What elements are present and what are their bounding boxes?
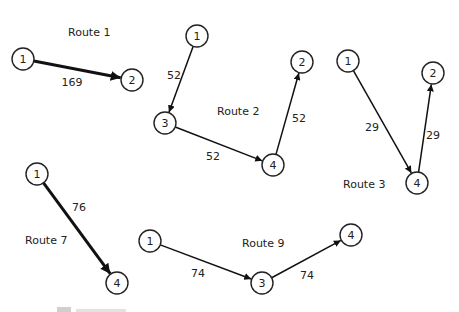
route-3-node-1: 1 [337,50,359,72]
node-label: 3 [162,117,169,130]
nodes-layer: 12134214214134 [12,25,444,294]
arrow-icon [353,71,411,173]
route-3-node-4: 4 [406,172,428,194]
route-1-label: Route 1 [68,26,110,39]
route-7-node-1: 1 [26,163,48,185]
node-label: 2 [430,67,437,80]
route-9-node-1: 1 [139,230,161,252]
route-9-node-3: 3 [251,272,273,294]
node-label: 1 [20,53,27,66]
route-3-label: Route 3 [343,178,385,191]
arrow-icon [160,245,251,279]
route-2-label: Route 2 [217,105,259,118]
route-7-label: Route 7 [25,234,67,247]
node-label: 4 [270,159,277,172]
route-1-node-2: 2 [121,69,143,91]
route-3-node-2: 2 [422,62,444,84]
route-9-label: Route 9 [242,237,284,250]
node-label: 1 [34,168,41,181]
route-9-edge-1-3 [160,245,251,279]
arrow-icon [44,183,111,274]
route-2-node-4: 4 [262,154,284,176]
figure-caption-clipped [57,307,126,312]
route-2-node-1: 1 [186,25,208,47]
node-label: 4 [348,229,355,242]
route-diagram: 12134214214134 169Route 1525252Route 229… [0,0,459,312]
edge-weight-label: 52 [206,150,220,163]
edge-weight-label: 169 [62,76,83,89]
route-2-node-2: 2 [291,51,313,73]
edge-weight-label: 74 [191,267,205,280]
node-label: 4 [114,277,121,290]
edge-weight-label: 29 [365,121,379,134]
route-9-node-4: 4 [340,224,362,246]
edge-weight-label: 52 [292,112,306,125]
route-1-node-1: 1 [12,48,34,70]
node-label: 3 [259,277,266,290]
node-label: 4 [414,177,421,190]
edge-weight-label: 76 [72,201,86,214]
node-label: 1 [345,55,352,68]
node-label: 2 [129,74,136,87]
edge-weight-label: 52 [167,69,181,82]
route-2-node-3: 3 [154,112,176,134]
node-label: 2 [299,56,306,69]
edge-weight-label: 74 [300,269,314,282]
node-label: 1 [147,235,154,248]
route-7-node-4: 4 [106,272,128,294]
node-label: 1 [194,30,201,43]
route-7-edge-1-4 [44,183,111,274]
edge-weight-label: 29 [426,129,440,142]
edges-layer [34,46,432,279]
route-3-edge-1-4 [353,71,411,173]
